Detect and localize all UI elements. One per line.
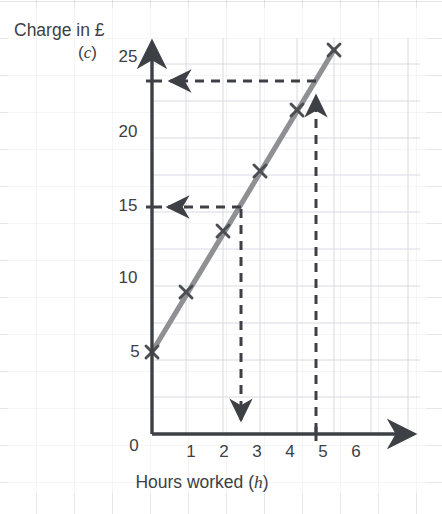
y-tick-label-10: 10 <box>119 268 138 288</box>
x-tick-label-2: 2 <box>219 442 228 462</box>
chart-gridlines <box>152 38 420 434</box>
x-tick-label-1: 1 <box>186 442 195 462</box>
x-tick-label-4: 4 <box>285 442 294 462</box>
annotation-read-off-15 <box>168 207 241 420</box>
paren-close: ) <box>263 472 269 492</box>
y-axis-variable: (c) <box>78 43 97 63</box>
y-tick-label-0: 0 <box>129 436 138 456</box>
y-axis-title: Charge in £ <box>14 20 104 41</box>
y-tick-label-5: 5 <box>130 342 139 362</box>
y-tick-label-25: 25 <box>119 47 138 67</box>
x-tick-label-3: 3 <box>252 442 261 462</box>
x-tick-label-5: 5 <box>318 442 327 462</box>
paren-close: ) <box>91 43 97 62</box>
graph-figure <box>0 0 442 514</box>
annotation-read-off-4-5 <box>170 81 316 432</box>
y-tick-label-20: 20 <box>119 122 138 142</box>
x-axis-title-text: Hours worked ( <box>135 472 254 492</box>
x-axis-title: Hours worked (h) <box>135 472 268 493</box>
x-tick-label-6: 6 <box>351 442 360 462</box>
data-line <box>152 50 334 352</box>
y-tick-label-15: 15 <box>119 196 138 216</box>
